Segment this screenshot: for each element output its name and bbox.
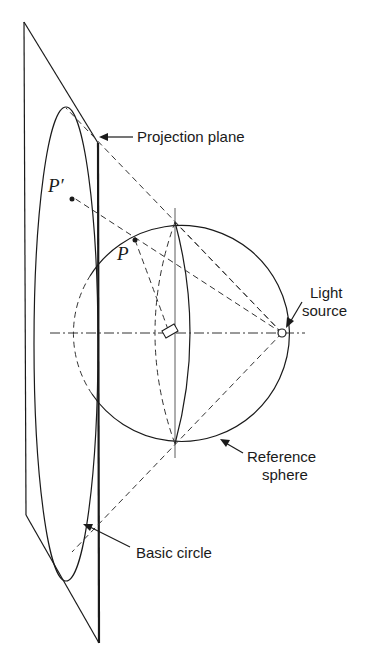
arrow-basic-circle — [83, 524, 93, 531]
point-p-dot — [133, 238, 138, 243]
label-reference-sphere-1: Reference — [247, 448, 316, 465]
basic-circle — [34, 107, 98, 581]
light-source-point — [278, 329, 286, 337]
label-p-prime: P′ — [47, 175, 65, 196]
label-p: P — [116, 243, 129, 264]
label-light-source-2: source — [302, 302, 347, 319]
reference-sphere-hidden — [73, 276, 92, 394]
diagram-canvas: P′ P Projection plane Light source Refer… — [0, 0, 380, 659]
right-angle-marker — [162, 324, 178, 338]
label-basic-circle: Basic circle — [136, 544, 212, 561]
arrow-projection-plane — [99, 133, 108, 141]
arrow-reference-sphere — [220, 439, 230, 447]
label-projection-plane: Projection plane — [137, 128, 245, 145]
label-light-source-1: Light — [310, 284, 343, 301]
label-reference-sphere-2: sphere — [262, 466, 308, 483]
point-p-prime-dot — [70, 197, 75, 202]
